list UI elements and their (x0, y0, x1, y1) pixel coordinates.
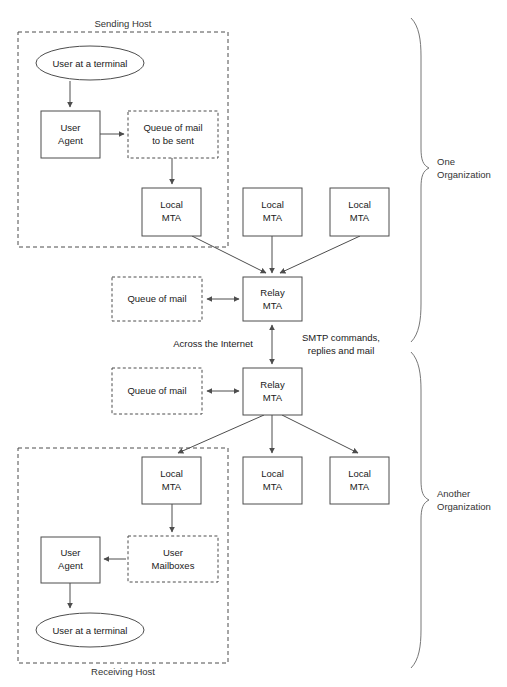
receiving-host-label: Receiving Host (91, 666, 155, 677)
local-mta-3-label-line1-top: Local (348, 199, 371, 210)
local-mta-1-label-line2-top: MTA (162, 212, 182, 223)
edge-relay-to-local-mta-1-bottom (178, 415, 264, 453)
node-user-terminal-bottom: User at a terminal (36, 613, 144, 647)
node-local-mta-2-top: Local MTA (243, 188, 302, 236)
sending-host-label: Sending Host (94, 18, 151, 29)
user-agent-label-line1-top: User (60, 122, 80, 133)
another-organization-brace (411, 352, 429, 668)
node-user-terminal-top: User at a terminal (36, 46, 144, 80)
node-user-agent-top: User Agent (41, 111, 100, 158)
relay-mta-label-line2-bottom: MTA (263, 392, 283, 403)
local-mta-3-label-line2-top: MTA (350, 212, 370, 223)
queue-of-mail-label-bottom: Queue of mail (127, 385, 186, 396)
local-mta-2-label-line1-bottom: Local (261, 468, 284, 479)
node-local-mta-1-top: Local MTA (142, 188, 201, 236)
another-organization-label-line1: Another (437, 488, 470, 499)
node-relay-mta-bottom: Relay MTA (243, 368, 302, 415)
local-mta-2-label-line1-top: Local (261, 199, 284, 210)
node-user-agent-bottom: User Agent (41, 537, 100, 583)
brace-another-organization: Another Organization (411, 352, 491, 668)
queue-of-mail-label-top: Queue of mail (127, 293, 186, 304)
node-queue-of-mail-bottom: Queue of mail (112, 368, 202, 414)
smtp-link-label-line2: replies and mail (308, 345, 375, 356)
one-organization-label-line2: Organization (437, 169, 491, 180)
queue-to-be-sent-label-line1: Queue of mail (143, 122, 202, 133)
local-mta-1-label-line1-bottom: Local (160, 468, 183, 479)
node-user-mailboxes: User Mailboxes (128, 536, 218, 582)
relay-mta-box-top (243, 277, 302, 321)
node-local-mta-1-bottom: Local MTA (142, 457, 201, 504)
node-queue-of-mail-top: Queue of mail (112, 277, 202, 321)
user-mailboxes-label-line2: Mailboxes (152, 560, 195, 571)
local-mta-2-label-line2-bottom: MTA (263, 481, 283, 492)
edge-local-mta-3-to-relay (280, 236, 360, 273)
relay-mta-label-line2-top: MTA (263, 300, 283, 311)
brace-one-organization: One Organization (411, 18, 491, 342)
local-mta-1-label-line1-top: Local (160, 199, 183, 210)
relay-mta-label-line1-bottom: Relay (260, 379, 285, 390)
local-mta-2-label-line2-top: MTA (263, 212, 283, 223)
relay-mta-label-line1-top: Relay (260, 287, 285, 298)
user-mailboxes-label-line1: User (163, 547, 183, 558)
user-agent-label-line2-bottom: Agent (58, 560, 83, 571)
smtp-architecture-diagram: Sending Host Receiving Host User at a te… (0, 0, 507, 687)
user-agent-label-line1-bottom: User (60, 547, 80, 558)
local-mta-1-label-line2-bottom: MTA (162, 481, 182, 492)
another-organization-label-line2: Organization (437, 501, 491, 512)
user-mailboxes-box (128, 536, 218, 582)
smtp-link-label-line1: SMTP commands, (302, 332, 380, 343)
user-agent-label-line2-top: Agent (58, 135, 83, 146)
node-local-mta-2-bottom: Local MTA (243, 457, 302, 504)
edge-local-mta-1-to-relay (192, 236, 266, 273)
node-relay-mta-top: Relay MTA (243, 277, 302, 321)
across-the-internet-label: Across the Internet (173, 338, 253, 349)
node-local-mta-3-bottom: Local MTA (330, 457, 389, 504)
user-terminal-label-top: User at a terminal (53, 58, 128, 69)
one-organization-label-line1: One (437, 156, 455, 167)
user-terminal-label-bottom: User at a terminal (53, 625, 128, 636)
node-queue-to-be-sent: Queue of mail to be sent (128, 111, 218, 158)
node-local-mta-3-top: Local MTA (330, 188, 389, 236)
diagram-root: Sending Host Receiving Host User at a te… (0, 0, 507, 687)
local-mta-3-label-line1-bottom: Local (348, 468, 371, 479)
edge-relay-to-local-mta-3-bottom (282, 415, 358, 453)
one-organization-brace (411, 18, 429, 342)
local-mta-3-label-line2-bottom: MTA (350, 481, 370, 492)
queue-to-be-sent-label-line2: to be sent (152, 135, 194, 146)
